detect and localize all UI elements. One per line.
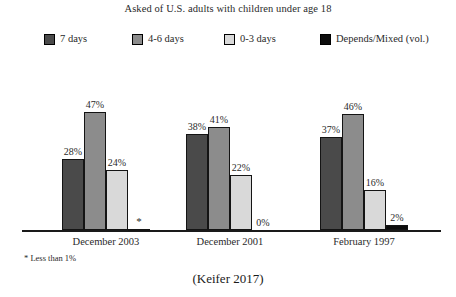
bar (320, 137, 342, 230)
bar-value-label: 41% (210, 115, 228, 125)
bar (62, 159, 84, 230)
bar (208, 127, 230, 230)
bar-value-label: 47% (86, 100, 104, 110)
bar (106, 170, 128, 230)
bar (186, 134, 208, 230)
bar-value-label: * (136, 216, 142, 227)
bar (342, 114, 364, 230)
bar-value-label: 0% (256, 218, 269, 228)
bar-value-label: 16% (366, 178, 384, 188)
chart-footnote: * Less than 1% (24, 253, 76, 263)
bar-value-label: 2% (390, 213, 403, 223)
x-axis-group-label: February 1997 (298, 236, 430, 247)
bar (128, 229, 150, 231)
bar (386, 225, 408, 230)
bar (364, 190, 386, 230)
chart-citation: (Keifer 2017) (0, 271, 456, 287)
bar-value-label: 22% (232, 163, 250, 173)
x-axis-line (22, 230, 441, 232)
bar (84, 112, 106, 230)
figure-container: Asked of U.S. adults with children under… (0, 0, 456, 297)
bar (230, 175, 252, 230)
bar-value-label: 24% (108, 158, 126, 168)
x-axis-group-label: December 2001 (164, 236, 296, 247)
bar-value-label: 28% (64, 147, 82, 157)
bar-value-label: 38% (188, 122, 206, 132)
bar-value-label: 46% (344, 102, 362, 112)
x-axis-group-label: December 2003 (40, 236, 172, 247)
bar-value-label: 37% (322, 125, 340, 135)
